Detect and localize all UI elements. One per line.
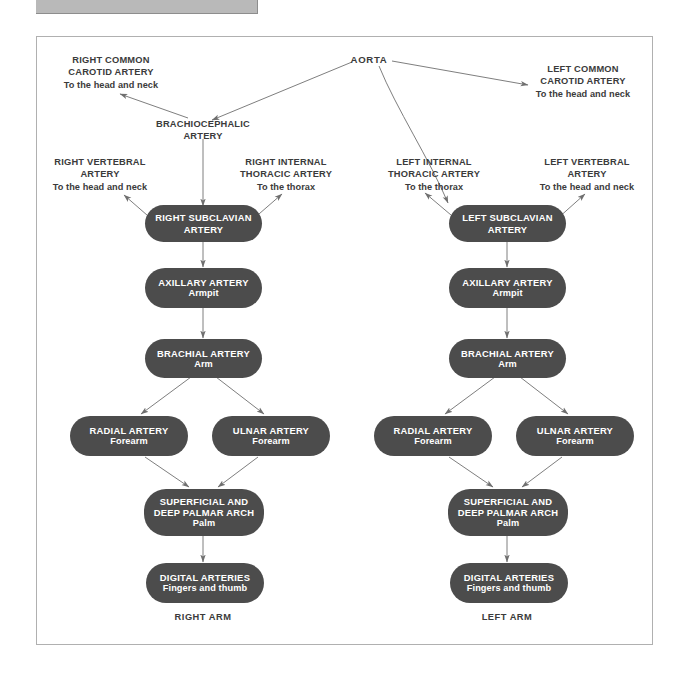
node-line-1: RADIAL ARTERY bbox=[90, 425, 169, 436]
label-line-1: RIGHT INTERNAL bbox=[222, 156, 350, 168]
label-left-common-carotid-artery: LEFT COMMON CAROTID ARTERY To the head a… bbox=[518, 63, 648, 100]
node-subtext: Forearm bbox=[252, 436, 289, 447]
label-line-2: CAROTID ARTERY bbox=[46, 66, 176, 78]
node-line-2: ARTERY bbox=[184, 224, 224, 235]
label-line-1: LEFT INTERNAL bbox=[370, 156, 498, 168]
node-right-palmar-arch[interactable]: SUPERFICIAL AND DEEP PALMAR ARCH Palm bbox=[144, 489, 264, 536]
node-line-1: DIGITAL ARTERIES bbox=[160, 572, 250, 583]
node-line-2: ARTERY bbox=[488, 224, 528, 235]
label-line-1: LEFT VERTEBRAL bbox=[523, 156, 651, 168]
label-line-2: CAROTID ARTERY bbox=[518, 75, 648, 87]
node-line-1: LEFT SUBCLAVIAN bbox=[462, 212, 553, 223]
label-line-2: THORACIC ARTERY bbox=[370, 168, 498, 180]
label-line-1: BRACHIOCEPHALIC bbox=[141, 118, 265, 130]
label-subtext: To the thorax bbox=[370, 181, 498, 193]
label-subtext: To the head and neck bbox=[523, 181, 651, 193]
node-subtext: Fingers and thumb bbox=[467, 583, 551, 594]
node-subtext: Fingers and thumb bbox=[163, 583, 247, 594]
node-line-1: RIGHT SUBCLAVIAN bbox=[155, 212, 252, 223]
label-line-1: LEFT COMMON bbox=[518, 63, 648, 75]
label-right-common-carotid-artery: RIGHT COMMON CAROTID ARTERY To the head … bbox=[46, 54, 176, 91]
label-left-internal-thoracic-artery: LEFT INTERNAL THORACIC ARTERY To the tho… bbox=[370, 156, 498, 193]
node-line-1: AXILLARY ARTERY bbox=[158, 277, 249, 288]
label-subtext: To the thorax bbox=[222, 181, 350, 193]
node-line-1: SUPERFICIAL AND bbox=[464, 496, 553, 507]
figure-frame bbox=[36, 36, 653, 645]
node-line-1: BRACHIAL ARTERY bbox=[157, 348, 250, 359]
node-right-digital-arteries[interactable]: DIGITAL ARTERIES Fingers and thumb bbox=[146, 563, 264, 603]
node-left-axillary-artery[interactable]: AXILLARY ARTERY Armpit bbox=[449, 268, 566, 308]
footer-right-arm: RIGHT ARM bbox=[143, 612, 263, 622]
label-line-2: ARTERY bbox=[141, 130, 265, 142]
node-subtext: Arm bbox=[498, 359, 517, 370]
label-line-1: RIGHT VERTEBRAL bbox=[36, 156, 164, 168]
node-left-brachial-artery[interactable]: BRACHIAL ARTERY Arm bbox=[449, 339, 566, 378]
label-right-vertebral-artery: RIGHT VERTEBRAL ARTERY To the head and n… bbox=[36, 156, 164, 193]
label-right-internal-thoracic-artery: RIGHT INTERNAL THORACIC ARTERY To the th… bbox=[222, 156, 350, 193]
node-left-radial-artery[interactable]: RADIAL ARTERY Forearm bbox=[374, 416, 492, 456]
node-line-1: AXILLARY ARTERY bbox=[462, 277, 553, 288]
node-right-axillary-artery[interactable]: AXILLARY ARTERY Armpit bbox=[145, 268, 262, 308]
label-line-1: RIGHT COMMON bbox=[46, 54, 176, 66]
label-left-vertebral-artery: LEFT VERTEBRAL ARTERY To the head and ne… bbox=[523, 156, 651, 193]
footer-left-arm: LEFT ARM bbox=[447, 612, 567, 622]
node-right-brachial-artery[interactable]: BRACHIAL ARTERY Arm bbox=[145, 339, 262, 378]
label-line-2: ARTERY bbox=[36, 168, 164, 180]
node-subtext: Armpit bbox=[188, 288, 218, 299]
node-line-1: ULNAR ARTERY bbox=[233, 425, 309, 436]
node-right-ulnar-artery[interactable]: ULNAR ARTERY Forearm bbox=[212, 416, 330, 456]
node-line-1: RADIAL ARTERY bbox=[394, 425, 473, 436]
node-left-ulnar-artery[interactable]: ULNAR ARTERY Forearm bbox=[516, 416, 634, 456]
label-subtext: To the head and neck bbox=[36, 181, 164, 193]
node-right-subclavian-artery[interactable]: RIGHT SUBCLAVIAN ARTERY bbox=[145, 205, 262, 242]
label-line-2: THORACIC ARTERY bbox=[222, 168, 350, 180]
node-line-1: BRACHIAL ARTERY bbox=[461, 348, 554, 359]
node-subtext: Forearm bbox=[110, 436, 147, 447]
top-gray-bar bbox=[36, 0, 258, 14]
label-subtext: To the head and neck bbox=[46, 79, 176, 91]
node-subtext: Armpit bbox=[492, 288, 522, 299]
label-brachiocephalic-artery: BRACHIOCEPHALIC ARTERY bbox=[141, 118, 265, 143]
node-line-2: DEEP PALMAR ARCH bbox=[154, 507, 255, 518]
node-left-subclavian-artery[interactable]: LEFT SUBCLAVIAN ARTERY bbox=[449, 205, 566, 242]
aorta-label: AORTA bbox=[338, 54, 400, 65]
node-subtext: Arm bbox=[194, 359, 213, 370]
node-line-1: SUPERFICIAL AND bbox=[160, 496, 249, 507]
node-left-palmar-arch[interactable]: SUPERFICIAL AND DEEP PALMAR ARCH Palm bbox=[448, 489, 568, 536]
node-line-1: DIGITAL ARTERIES bbox=[464, 572, 554, 583]
node-line-1: ULNAR ARTERY bbox=[537, 425, 613, 436]
node-right-radial-artery[interactable]: RADIAL ARTERY Forearm bbox=[70, 416, 188, 456]
node-left-digital-arteries[interactable]: DIGITAL ARTERIES Fingers and thumb bbox=[450, 563, 568, 603]
label-subtext: To the head and neck bbox=[518, 88, 648, 100]
node-line-2: DEEP PALMAR ARCH bbox=[458, 507, 559, 518]
node-subtext: Forearm bbox=[414, 436, 451, 447]
node-subtext: Palm bbox=[193, 518, 215, 529]
node-subtext: Forearm bbox=[556, 436, 593, 447]
node-subtext: Palm bbox=[497, 518, 519, 529]
label-line-2: ARTERY bbox=[523, 168, 651, 180]
